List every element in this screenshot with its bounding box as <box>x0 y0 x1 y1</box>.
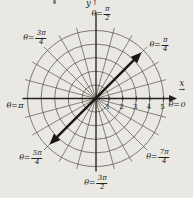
x-tick-label: 2 <box>119 103 123 111</box>
theta-label-prefix: θ= <box>91 10 102 18</box>
polar-figure: 12345 y ↑ x → θ=0θ=π4θ=π2θ=3π4θ=πθ=5π4θ=… <box>0 0 193 198</box>
theta-label-0: θ=0 <box>168 101 185 109</box>
theta-label-value: π <box>18 102 23 110</box>
fraction-denominator: 4 <box>35 159 39 167</box>
theta-label-fraction: 3π2 <box>97 175 108 191</box>
theta-label-prefix: θ= <box>23 34 34 42</box>
theta-label-prefix: θ= <box>6 102 17 110</box>
theta-label-3pi-2: θ=3π2 <box>84 175 107 191</box>
scan-artifact <box>53 0 56 4</box>
theta-label-prefix: θ= <box>149 41 160 49</box>
theta-label-fraction: 3π4 <box>36 30 47 46</box>
theta-label-fraction: 7π4 <box>159 149 170 165</box>
theta-label-prefix: θ= <box>19 154 30 162</box>
theta-label-pi: θ=π <box>6 102 23 110</box>
y-axis-label-text: y <box>86 0 91 8</box>
theta-label-value: 0 <box>180 101 185 109</box>
fraction-denominator: 4 <box>162 158 166 166</box>
theta-label-3pi-4: θ=3π4 <box>23 30 46 46</box>
fraction-denominator: 4 <box>163 46 167 54</box>
x-tick-label: 5 <box>160 103 164 111</box>
theta-label-prefix: θ= <box>146 153 157 161</box>
theta-label-pi-4: θ=π4 <box>149 37 168 53</box>
theta-label-pi-2: θ=π2 <box>91 6 110 22</box>
theta-label-7pi-4: θ=7π4 <box>146 149 169 165</box>
theta-label-5pi-4: θ=5π4 <box>19 150 42 166</box>
fraction-denominator: 4 <box>39 39 43 47</box>
theta-label-fraction: π4 <box>162 37 169 53</box>
x-axis-label: x → <box>175 80 189 94</box>
theta-label-fraction: π2 <box>104 6 111 22</box>
right-arrow-icon: → <box>179 87 185 93</box>
x-tick-label: 4 <box>147 103 152 111</box>
theta-label-prefix: θ= <box>168 101 179 109</box>
theta-label-fraction: 5π4 <box>32 150 43 166</box>
x-tick-label: 1 <box>106 103 110 111</box>
fraction-denominator: 2 <box>105 15 109 23</box>
x-tick-label: 3 <box>133 103 137 111</box>
theta-label-prefix: θ= <box>84 179 95 187</box>
fraction-denominator: 2 <box>100 184 104 192</box>
